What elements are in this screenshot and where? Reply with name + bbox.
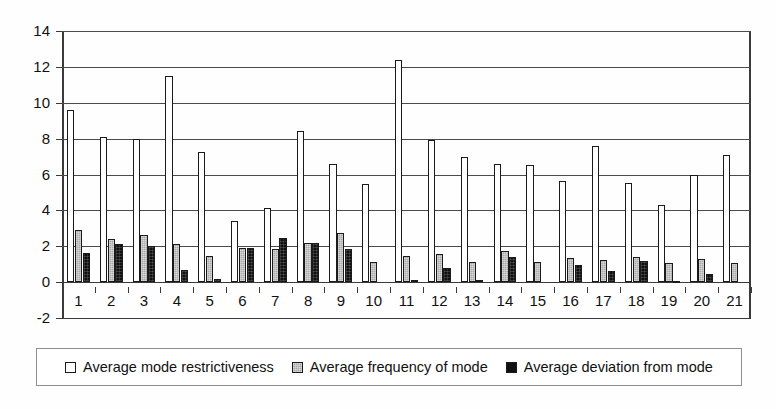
bar-group-11 bbox=[390, 31, 423, 318]
x-axis-label-12: 12 bbox=[423, 292, 456, 309]
legend-label-2: Average frequency of mode bbox=[310, 359, 488, 375]
x-tick-21 bbox=[751, 287, 752, 293]
bar-9-series-2 bbox=[337, 233, 344, 282]
bar-4-series-2 bbox=[173, 244, 180, 283]
bar-8-series-1 bbox=[297, 131, 304, 282]
bar-19-series-2 bbox=[665, 263, 672, 282]
x-axis-label-21: 21 bbox=[718, 292, 751, 309]
bar-20-series-2 bbox=[698, 259, 705, 282]
bar-12-series-1 bbox=[428, 140, 435, 282]
x-axis-label-10: 10 bbox=[357, 292, 390, 309]
bar-18-series-3 bbox=[640, 261, 647, 283]
x-axis-label-6: 6 bbox=[226, 292, 259, 309]
x-axis-label-16: 16 bbox=[554, 292, 587, 309]
x-axis-label-20: 20 bbox=[685, 292, 718, 309]
bar-21-series-1 bbox=[723, 155, 730, 282]
bar-16-series-1 bbox=[559, 181, 566, 282]
bar-7-series-1 bbox=[264, 208, 271, 282]
bar-4-series-3 bbox=[181, 270, 188, 282]
x-axis-label-13: 13 bbox=[456, 292, 489, 309]
chart-legend: Average mode restrictivenessAverage freq… bbox=[36, 348, 742, 386]
x-axis-label-19: 19 bbox=[653, 292, 686, 309]
bar-7-series-3 bbox=[279, 238, 286, 282]
legend-item-2[interactable]: Average frequency of mode bbox=[292, 359, 488, 375]
bar-14-series-1 bbox=[494, 164, 501, 282]
bar-group-4 bbox=[160, 31, 193, 318]
bar-13-series-2 bbox=[469, 262, 476, 283]
bar-20-series-3 bbox=[706, 274, 713, 282]
bar-6-series-2 bbox=[239, 248, 246, 282]
bar-1-series-3 bbox=[83, 253, 90, 282]
x-axis-label-14: 14 bbox=[489, 292, 522, 309]
bar-group-15 bbox=[521, 31, 554, 318]
x-axis-label-9: 9 bbox=[324, 292, 357, 309]
x-axis-label-3: 3 bbox=[128, 292, 161, 309]
bar-15-series-1 bbox=[526, 165, 533, 282]
x-axis: 123456789101112131415161718192021 bbox=[62, 287, 751, 318]
bar-21-series-2 bbox=[731, 263, 738, 282]
bar-18-series-2 bbox=[633, 257, 640, 282]
bar-17-series-1 bbox=[592, 146, 599, 282]
bar-19-series-3 bbox=[673, 281, 680, 283]
bar-16-series-2 bbox=[567, 258, 574, 282]
bar-chart-figure: -202468101214 12345678910111213141516171… bbox=[0, 0, 776, 409]
y-tick--2 bbox=[56, 318, 62, 319]
bar-6-series-1 bbox=[231, 221, 238, 282]
bar-group-14 bbox=[489, 31, 522, 318]
x-axis-label-18: 18 bbox=[620, 292, 653, 309]
legend-label-3: Average deviation from mode bbox=[524, 359, 713, 375]
bar-group-6 bbox=[226, 31, 259, 318]
y-tick-label-0: 0 bbox=[0, 273, 50, 290]
bar-group-10 bbox=[357, 31, 390, 318]
bar-17-series-2 bbox=[600, 260, 607, 282]
legend-swatch-icon-1 bbox=[65, 362, 76, 373]
x-axis-label-4: 4 bbox=[160, 292, 193, 309]
x-axis-label-11: 11 bbox=[390, 292, 423, 309]
bar-group-3 bbox=[128, 31, 161, 318]
plot-bottom-border bbox=[62, 318, 751, 319]
x-axis-label-17: 17 bbox=[587, 292, 620, 309]
bar-8-series-2 bbox=[304, 243, 311, 282]
bar-group-1 bbox=[62, 31, 95, 318]
y-tick-label-4: 4 bbox=[0, 201, 50, 218]
bar-group-18 bbox=[620, 31, 653, 318]
bar-5-series-2 bbox=[206, 256, 213, 282]
bar-13-series-1 bbox=[461, 157, 468, 283]
y-tick-label-2: 2 bbox=[0, 237, 50, 254]
y-tick-label-12: 12 bbox=[0, 58, 50, 75]
y-tick-label-10: 10 bbox=[0, 94, 50, 111]
bar-2-series-2 bbox=[108, 239, 115, 282]
bar-group-16 bbox=[554, 31, 587, 318]
bar-3-series-3 bbox=[148, 246, 155, 282]
bar-6-series-3 bbox=[247, 248, 254, 282]
y-tick-label--2: -2 bbox=[0, 309, 50, 326]
bar-17-series-3 bbox=[608, 271, 615, 282]
bar-group-20 bbox=[685, 31, 718, 318]
bar-5-series-1 bbox=[198, 152, 205, 282]
bar-12-series-2 bbox=[436, 254, 443, 282]
bar-9-series-3 bbox=[345, 249, 352, 282]
bar-group-12 bbox=[423, 31, 456, 318]
y-tick-label-6: 6 bbox=[0, 166, 50, 183]
bar-13-series-3 bbox=[476, 280, 483, 282]
legend-item-1[interactable]: Average mode restrictiveness bbox=[65, 359, 274, 375]
bar-9-series-1 bbox=[329, 164, 336, 282]
bar-10-series-2 bbox=[370, 262, 377, 283]
x-axis-label-8: 8 bbox=[292, 292, 325, 309]
x-axis-label-7: 7 bbox=[259, 292, 292, 309]
legend-swatch-icon-2 bbox=[292, 362, 303, 373]
bar-11-series-2 bbox=[403, 256, 410, 282]
bar-group-7 bbox=[259, 31, 292, 318]
bar-14-series-3 bbox=[509, 257, 516, 282]
bar-12-series-3 bbox=[443, 268, 450, 282]
legend-item-3[interactable]: Average deviation from mode bbox=[506, 359, 713, 375]
bar-8-series-3 bbox=[312, 243, 319, 282]
bar-14-series-2 bbox=[501, 251, 508, 282]
y-tick-label-14: 14 bbox=[0, 22, 50, 39]
bar-4-series-1 bbox=[165, 76, 172, 282]
bar-2-series-3 bbox=[115, 244, 122, 282]
bar-11-series-1 bbox=[395, 60, 402, 282]
bar-group-9 bbox=[324, 31, 357, 318]
bar-group-13 bbox=[456, 31, 489, 318]
plot-area bbox=[62, 31, 751, 318]
